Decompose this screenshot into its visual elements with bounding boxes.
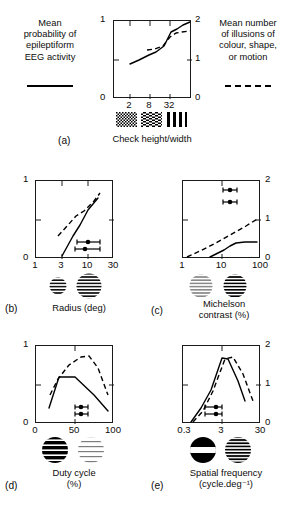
panel-a-ytick-right-0: 0 <box>195 92 200 102</box>
panel-e-xlabel: Spatial frequency (cycle.deg⁻¹) <box>174 468 278 489</box>
panel-a-ytick-right-2: 2 <box>195 14 200 24</box>
panel-b-marker-illusions <box>77 240 100 245</box>
panel-e: 2 1 0 0.3 3 30 Spatial frequency (cycle.… <box>149 320 298 509</box>
panel-d-ytick-0: 0 <box>23 417 28 427</box>
panel-c-ytick-2: 2 <box>265 174 270 184</box>
panel-d-xtick-100: 100 <box>105 425 121 435</box>
panel-a-xtick-8: 8 <box>146 100 151 110</box>
panel-e-ytick-2: 2 <box>265 339 270 349</box>
panel-b: 1 0 1 3 10 30 Radius (deg) (b) <box>0 155 149 320</box>
panel-b-curves <box>36 181 114 259</box>
panel-e-marker-illusions <box>205 405 222 410</box>
panel-e-xtick-30: 30 <box>255 425 266 435</box>
panel-a-letter: (a) <box>58 135 70 146</box>
panel-d: 1 0 0 50 100 Duty cycle (%) (d) <box>0 320 149 509</box>
panel-d-letter: (d) <box>5 480 17 491</box>
panel-a-ytick-right-1: 1 <box>195 53 200 63</box>
panel-a-ytick-left-1: 1 <box>100 14 105 24</box>
panel-b-xtick-1: 1 <box>32 260 37 270</box>
panel-e-ytick-1: 1 <box>265 378 270 388</box>
panel-e-xtick-3: 3 <box>218 425 223 435</box>
panel-d-curves <box>36 346 114 424</box>
panel-c-marker-eeg <box>223 200 237 205</box>
panel-e-letter: (e) <box>151 480 163 491</box>
panel-a-plot-frame <box>113 20 191 98</box>
panel-c-xtick-100: 100 <box>252 260 268 270</box>
panel-c-letter: (c) <box>151 305 163 316</box>
panel-c-plot-frame <box>182 180 260 258</box>
panel-b-ytick-1: 1 <box>23 174 28 184</box>
panel-e-xtick-0-3: 0.3 <box>177 425 190 435</box>
panel-b-ytick-0: 0 <box>23 252 28 262</box>
panel-a-ytick-left-0: 0 <box>100 92 105 102</box>
panel-d-xtick-50: 50 <box>69 425 80 435</box>
panel-b-xtick-3: 3 <box>58 260 63 270</box>
panel-c-xtick-10: 10 <box>216 260 227 270</box>
panel-c-stimulus-icons <box>187 273 257 299</box>
panel-d-marker-illusions <box>75 405 88 410</box>
epilepsy-illusion-figure: Mean probability of epileptiform EEG act… <box>0 0 298 509</box>
panel-c-ytick-1: 1 <box>265 213 270 223</box>
panel-e-stimulus-icons <box>185 436 259 464</box>
panel-d-xlabel: Duty cycle (%) <box>29 468 119 489</box>
panel-a-stimulus-icons <box>113 112 191 128</box>
panel-c: 2 1 0 1 10 100 Michelson contrast (%) <box>149 155 298 320</box>
panel-b-xtick-30: 30 <box>108 260 119 270</box>
panel-e-ytick-0: 0 <box>265 417 270 427</box>
panel-a-xtick-32: 32 <box>164 100 175 110</box>
panel-d-stimulus-icons <box>38 436 110 464</box>
panel-b-marker-eeg <box>75 247 100 252</box>
panel-b-letter: (b) <box>5 303 17 314</box>
panel-b-xtick-10: 10 <box>82 260 93 270</box>
panel-c-xlabel: Michelson contrast (%) <box>176 299 272 320</box>
panel-c-curves <box>183 181 261 259</box>
panel-e-plot-frame <box>182 345 260 423</box>
panel-a-curves <box>114 21 192 99</box>
panel-e-marker-eeg <box>205 412 222 417</box>
panel-e-curves <box>183 346 261 424</box>
panel-b-xlabel: Radius (deg) <box>34 303 124 314</box>
panel-c-marker-illusions <box>223 188 237 193</box>
panel-a-xlabel: Check height/width <box>92 134 212 145</box>
panel-a-xtick-2: 2 <box>126 100 131 110</box>
panel-d-marker-eeg <box>75 412 88 417</box>
panel-a: 1 0 2 1 0 2 8 32 <box>0 0 298 155</box>
panel-d-ytick-1: 1 <box>23 339 28 349</box>
panel-c-xtick-1: 1 <box>179 260 184 270</box>
panel-b-plot-frame <box>35 180 113 258</box>
panel-d-plot-frame <box>35 345 113 423</box>
panel-b-stimulus-icons <box>42 273 110 299</box>
panel-d-xtick-0: 0 <box>32 425 37 435</box>
